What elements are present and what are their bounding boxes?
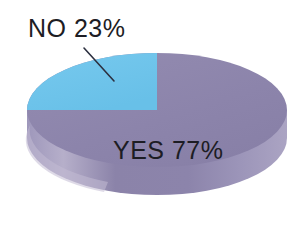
pie-chart-figure: NO 23% YES 77%	[0, 0, 305, 251]
pie-slice-no	[27, 53, 157, 110]
pie-label-no: NO 23%	[28, 14, 125, 42]
pie-label-yes: YES 77%	[113, 136, 224, 164]
